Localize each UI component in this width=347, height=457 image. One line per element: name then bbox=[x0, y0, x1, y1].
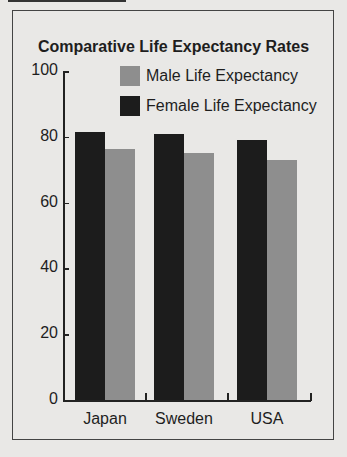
bar-japan-male bbox=[105, 149, 135, 400]
y-tick bbox=[63, 334, 69, 336]
bar-usa-female bbox=[237, 140, 267, 400]
x-axis bbox=[63, 400, 311, 402]
bar-usa-male bbox=[267, 160, 297, 400]
legend-swatch-female bbox=[120, 96, 140, 116]
y-tick-label: 40 bbox=[8, 258, 58, 276]
y-tick-label: 20 bbox=[8, 324, 58, 342]
y-tick bbox=[63, 268, 69, 270]
bar-japan-female bbox=[75, 132, 105, 400]
legend-label-female: Female Life Expectancy bbox=[146, 97, 317, 115]
x-tick bbox=[310, 393, 312, 401]
x-tick-label: Sweden bbox=[144, 410, 224, 428]
bar-sweden-male bbox=[184, 153, 214, 400]
y-tick-label: 100 bbox=[8, 61, 58, 79]
x-tick-label: USA bbox=[227, 410, 307, 428]
y-tick bbox=[63, 203, 69, 205]
x-tick bbox=[227, 393, 229, 401]
y-tick-label: 80 bbox=[8, 127, 58, 145]
y-tick-label: 0 bbox=[8, 390, 58, 408]
y-tick bbox=[63, 137, 69, 139]
y-tick bbox=[63, 71, 69, 73]
y-axis bbox=[63, 71, 65, 401]
x-tick bbox=[145, 393, 147, 401]
y-tick-label: 60 bbox=[8, 193, 58, 211]
y-tick bbox=[63, 400, 69, 402]
legend-swatch-male bbox=[120, 66, 140, 86]
x-tick-label: Japan bbox=[65, 410, 145, 428]
header-underline bbox=[8, 0, 126, 2]
legend-label-male: Male Life Expectancy bbox=[146, 67, 298, 85]
bar-sweden-female bbox=[154, 134, 184, 400]
chart-title: Comparative Life Expectancy Rates bbox=[0, 38, 347, 56]
